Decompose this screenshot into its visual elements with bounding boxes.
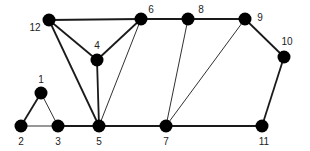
edge-10-11 [262,57,284,126]
node-12 [43,14,56,27]
edge-12-5 [49,20,99,126]
edge-9-7 [166,19,245,126]
node-6 [135,13,148,26]
node-label-9: 9 [257,12,263,23]
edge-4-5 [97,60,99,126]
node-label-11: 11 [259,136,270,147]
node-label-2: 2 [18,136,24,147]
node-8 [182,13,195,26]
node-label-1: 1 [38,74,44,85]
edge-6-5 [99,19,141,126]
node-5 [93,120,106,133]
nodes-layer [15,13,291,133]
edge-8-7 [166,19,188,126]
node-label-6: 6 [148,4,154,15]
node-9 [239,13,252,26]
edge-4-6 [97,19,141,60]
node-3 [52,120,65,133]
node-2 [15,120,28,133]
node-label-12: 12 [29,22,41,33]
edge-12-6 [49,19,141,20]
node-label-5: 5 [96,136,102,147]
edge-9-10 [245,19,284,57]
node-label-4: 4 [94,40,100,51]
edge-12-4 [49,20,97,60]
node-label-3: 3 [55,136,61,147]
node-10 [278,51,291,64]
node-label-8: 8 [198,4,204,15]
node-7 [160,120,173,133]
node-11 [256,120,269,133]
node-4 [91,54,104,67]
edges-layer [21,19,284,126]
node-label-7: 7 [163,136,169,147]
node-1 [35,87,48,100]
node-label-10: 10 [281,36,293,47]
graph-diagram: 123456789101112 [0,0,310,151]
